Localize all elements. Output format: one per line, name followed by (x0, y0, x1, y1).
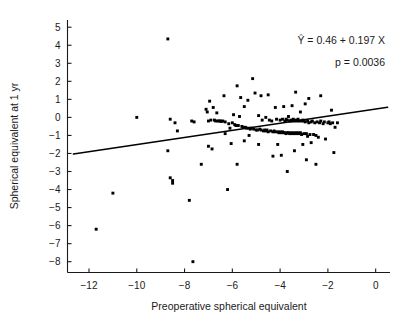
y-tick-label: 3 (55, 58, 61, 69)
data-point (236, 163, 239, 166)
data-point (232, 113, 235, 116)
data-point (224, 132, 227, 135)
y-tick-label: −7 (49, 238, 61, 249)
scatter-plot-figure: −12−10−8−6−4−20 543210−1−2−3−4−5−6−7−8 Ŷ… (0, 0, 394, 327)
data-point (271, 155, 274, 158)
data-point (286, 170, 289, 173)
data-point (239, 96, 242, 99)
y-tick-label: −1 (49, 130, 61, 141)
y-axis-tick-labels: 543210−1−2−3−4−5−6−7−8 (49, 22, 61, 267)
data-point (319, 120, 322, 123)
p-value-annotation: p = 0.0036 (335, 56, 385, 68)
data-point (324, 138, 327, 141)
data-point (334, 126, 337, 129)
y-tick-label: −5 (49, 202, 61, 213)
data-points (95, 37, 339, 263)
data-point (261, 119, 264, 122)
data-point (228, 127, 231, 130)
data-point (254, 92, 257, 95)
data-point (309, 133, 312, 136)
data-point (304, 102, 307, 105)
data-point (330, 109, 333, 112)
data-point (257, 114, 260, 117)
data-point (280, 154, 283, 157)
y-tick-label: −3 (49, 166, 61, 177)
data-point (135, 116, 138, 119)
data-point (305, 132, 308, 135)
y-tick-label: 5 (55, 22, 61, 33)
data-point (230, 142, 233, 145)
data-point (287, 115, 290, 118)
data-point (226, 188, 229, 191)
data-point (227, 122, 230, 125)
data-point (319, 94, 322, 97)
data-point (176, 129, 179, 132)
data-point (270, 120, 273, 123)
data-point (212, 106, 215, 109)
x-tick-label: −6 (227, 280, 239, 291)
data-point (236, 84, 239, 87)
y-tick-label: 1 (55, 94, 61, 105)
regression-line (73, 107, 387, 154)
data-point (215, 111, 218, 114)
data-point (331, 121, 334, 124)
data-point (208, 100, 211, 103)
x-tick-label: −8 (179, 280, 191, 291)
x-axis-ticks (89, 269, 376, 273)
plot-canvas: −12−10−8−6−4−20 543210−1−2−3−4−5−6−7−8 Ŷ… (0, 0, 394, 327)
x-tick-label: −12 (81, 280, 98, 291)
y-tick-label: −8 (49, 256, 61, 267)
data-point (299, 111, 302, 114)
data-point (317, 136, 320, 139)
data-point (305, 158, 308, 161)
data-point (223, 94, 226, 97)
y-axis-ticks (68, 27, 72, 261)
data-point (169, 118, 172, 121)
data-point (166, 149, 169, 152)
data-point (248, 134, 251, 137)
y-axis-title: Spherical equivalent at 1 yr (8, 82, 20, 209)
data-point (207, 145, 210, 148)
data-point (169, 176, 172, 179)
data-point (267, 93, 270, 96)
data-point (260, 94, 263, 97)
y-tick-label: −6 (49, 220, 61, 231)
data-point (111, 192, 114, 195)
y-tick-label: 2 (55, 76, 61, 87)
data-point (307, 97, 310, 100)
data-point (174, 121, 177, 124)
data-point (294, 91, 297, 94)
data-point (291, 104, 294, 107)
data-point (314, 163, 317, 166)
data-point (243, 105, 246, 108)
data-point (336, 121, 339, 124)
data-point (188, 199, 191, 202)
data-point (95, 228, 98, 231)
data-point (243, 139, 246, 142)
x-tick-label: −4 (274, 280, 286, 291)
data-point (301, 143, 304, 146)
x-tick-label: 0 (373, 280, 379, 291)
y-tick-label: 4 (55, 40, 61, 51)
data-point (251, 77, 254, 80)
data-point (171, 179, 174, 182)
data-point (237, 124, 240, 127)
data-point (166, 37, 169, 40)
data-point (205, 108, 208, 111)
data-point (206, 111, 209, 114)
data-point (323, 120, 326, 123)
data-point (224, 120, 227, 123)
data-point (246, 99, 249, 102)
y-tick-label: −2 (49, 148, 61, 159)
y-tick-label: 0 (55, 112, 61, 123)
data-point (191, 260, 194, 263)
data-point (209, 119, 212, 122)
data-point (200, 163, 203, 166)
data-point (211, 148, 214, 151)
regression-equation-annotation: Ŷ = 0.46 + 0.197 X (297, 34, 385, 46)
data-point (257, 143, 260, 146)
data-point (171, 182, 174, 185)
x-tick-label: −10 (128, 280, 145, 291)
data-point (276, 143, 279, 146)
data-point (274, 106, 277, 109)
